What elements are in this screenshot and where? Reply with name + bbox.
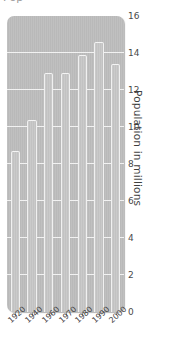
y-axis-tick-label: 2: [128, 271, 134, 280]
bar: [11, 151, 20, 312]
plot-area: [7, 16, 124, 312]
x-axis: 1920194019601970198019902000: [0, 312, 178, 337]
bar: [111, 64, 120, 312]
bar: [78, 55, 87, 312]
clipped-title-text: Pop: [3, 0, 24, 4]
y-axis-title: Population in millions: [132, 90, 144, 206]
y-axis-tick-label: 16: [128, 12, 139, 21]
bar: [44, 73, 53, 312]
bar: [94, 42, 103, 312]
bar: [27, 120, 36, 312]
y-axis-tick-label: 4: [128, 234, 134, 243]
bar-chart-figure: Pop 0246810121416 Population in millions…: [0, 0, 178, 337]
bar: [61, 73, 70, 312]
gridline: [7, 52, 124, 53]
y-axis-tick-label: 14: [128, 49, 139, 58]
